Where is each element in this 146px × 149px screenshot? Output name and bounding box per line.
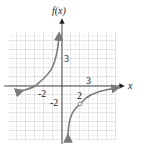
x-tick-neg2: -2	[38, 88, 46, 99]
y-axis-label: f(x)	[52, 5, 67, 17]
open-point	[78, 102, 82, 106]
graph-of-f: f(x) x 3 -2 -2 3 2	[0, 0, 146, 149]
x-tick-3: 3	[86, 75, 91, 86]
y-tick-3: 3	[64, 53, 69, 64]
y-tick-neg2: -2	[50, 97, 58, 108]
x-axis-label: x	[127, 80, 133, 91]
x-tick-2: 2	[77, 90, 82, 101]
